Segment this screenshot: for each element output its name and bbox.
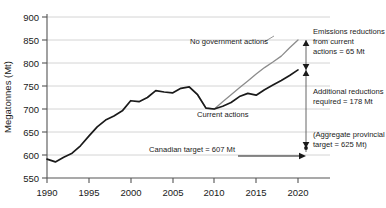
ytick-label-550: 550 bbox=[23, 173, 39, 184]
aggregate-target-line2: target = 625 Mt) bbox=[313, 140, 367, 149]
xtick-label-2010: 2010 bbox=[203, 187, 224, 198]
ytick-label-800: 800 bbox=[23, 58, 39, 69]
xtick-label-2015: 2015 bbox=[245, 187, 266, 198]
ytick-label-900: 900 bbox=[23, 12, 39, 23]
aggregate-provincial-target-marker bbox=[304, 146, 308, 150]
additional-reductions-line1: Additional reductions bbox=[313, 87, 384, 96]
xtick-label-2000: 2000 bbox=[120, 187, 141, 198]
ytick-label-700: 700 bbox=[23, 104, 39, 115]
ytick-label-850: 850 bbox=[23, 35, 39, 46]
xtick-label-1990: 1990 bbox=[36, 187, 57, 198]
ytick-label-650: 650 bbox=[23, 127, 39, 138]
xtick-label-2020: 2020 bbox=[287, 187, 308, 198]
canadian-target-label: Canadian target = 607 Mt bbox=[149, 145, 236, 154]
emissions-projection-chart: 900 850 800 750 700 650 600 550 1990 199… bbox=[0, 0, 386, 208]
xtick-label-1995: 1995 bbox=[78, 187, 99, 198]
emissions-reductions-line2: from current bbox=[313, 37, 355, 46]
current-actions-label: Current actions bbox=[197, 110, 249, 119]
xtick-label-2005: 2005 bbox=[162, 187, 183, 198]
no-government-actions-label: No government actions bbox=[190, 37, 268, 46]
additional-reductions-line2: required = 178 Mt bbox=[313, 97, 374, 106]
y-axis-title: Megatonnes (Mt) bbox=[2, 61, 13, 133]
chart-container: 900 850 800 750 700 650 600 550 1990 199… bbox=[0, 0, 386, 208]
ytick-label-750: 750 bbox=[23, 81, 39, 92]
ytick-label-600: 600 bbox=[23, 150, 39, 161]
aggregate-target-line1: (Aggregate provincial bbox=[313, 130, 385, 139]
emissions-reductions-line1: Emissions reductions bbox=[313, 27, 385, 36]
emissions-reductions-line3: actions = 65 Mt bbox=[313, 47, 366, 56]
